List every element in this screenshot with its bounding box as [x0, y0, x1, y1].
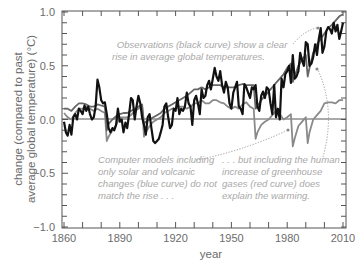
- annotation-observations: Observations (black curve) show a clear …: [112, 26, 320, 62]
- annotation-solar-volcanic-line-2: only solar and volcanic: [98, 166, 195, 177]
- series-layer: [64, 14, 343, 146]
- x-tick-label: 1920: [163, 232, 187, 244]
- x-tick-label: 1950: [219, 232, 243, 244]
- x-axis-title: year: [200, 248, 223, 260]
- temperature-chart: change (compared to past average global …: [0, 0, 362, 266]
- arrow-head-icon: [315, 67, 318, 70]
- x-tick-label: 1860: [52, 232, 76, 244]
- x-tick-label: 1980: [275, 232, 299, 244]
- annotation-observations-line-2: rise in average global temperatures.: [112, 51, 265, 62]
- annotation-observations-line-1: Observations (black curve) show a clear: [117, 39, 288, 50]
- arrow-head-icon: [286, 128, 289, 131]
- arrow-head-icon: [316, 26, 319, 29]
- annotation-greenhouse-line-1: . . . but including the human: [222, 154, 340, 165]
- annotation-solar-volcanic-line-3: changes (blue curve) do not: [98, 178, 217, 189]
- y-tick-label: 1.0: [40, 6, 55, 18]
- annotation-solar-volcanic-line-1: Computer models including: [98, 154, 215, 165]
- annotation-solar-volcanic-line-4: match the rise . . .: [98, 190, 174, 201]
- annotation-greenhouse-line-2: increase of greenhouse: [222, 166, 322, 177]
- svg-text:. . . but including the human: . . . but including the human increase o…: [222, 154, 343, 201]
- x-tick-label: 1890: [108, 232, 132, 244]
- y-tick-label: 0.5: [40, 60, 55, 72]
- x-tick-label: 2010: [331, 232, 355, 244]
- annotation-greenhouse-line-4: explain the warming.: [222, 190, 310, 201]
- y-tick-label: 0.0: [40, 114, 55, 126]
- y-tick-label: −0.5: [33, 167, 55, 179]
- x-axis-tick-labels: 186018901920195019802010: [52, 232, 355, 244]
- svg-text:Computer models including: Computer models including only solar and…: [98, 154, 220, 201]
- annotation-greenhouse-line-3: gases (red curve) does: [222, 178, 320, 189]
- svg-text:Observations (black curve) sho: Observations (black curve) show a clear …: [112, 39, 290, 62]
- y-axis-title-line-1: change (compared to past: [12, 51, 24, 185]
